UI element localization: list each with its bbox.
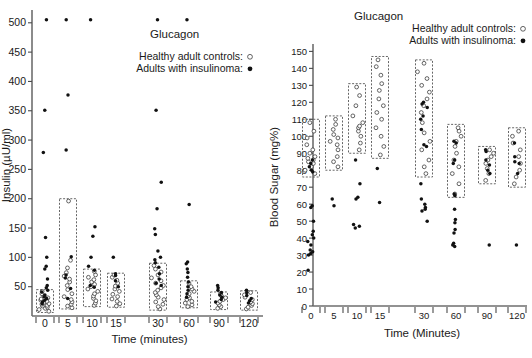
insulinoma-data-point <box>40 290 44 294</box>
control-data-point <box>161 302 165 306</box>
y-axis-tick-label: 140 <box>291 63 307 74</box>
insulinoma-data-point <box>426 106 430 110</box>
insulinoma-data-point <box>114 279 118 283</box>
insulinoma-data-point <box>332 204 336 208</box>
y-axis-tick-label: 20 <box>296 267 307 278</box>
control-data-point <box>68 277 72 281</box>
insulinoma-data-point <box>330 197 334 201</box>
legend-controls-label: Healthy adult controls: <box>139 50 243 62</box>
insulinoma-data-point <box>311 233 315 237</box>
control-data-point <box>70 292 74 296</box>
control-data-point <box>376 58 380 62</box>
control-data-point <box>351 114 355 118</box>
insulinoma-data-point <box>452 162 456 166</box>
insulinoma-data-point <box>185 295 189 299</box>
control-data-point <box>484 178 488 182</box>
insulinoma-data-point <box>66 297 70 301</box>
control-data-point <box>456 126 460 130</box>
x-axis-title: Time (Minutes) <box>384 327 460 339</box>
control-data-point <box>455 151 459 155</box>
control-data-point <box>517 155 521 159</box>
control-data-point <box>69 298 73 302</box>
control-data-point <box>492 151 496 155</box>
insulinoma-data-point <box>453 228 457 232</box>
insulinoma-data-point <box>154 233 158 237</box>
control-data-point <box>334 122 338 126</box>
control-data-point <box>162 298 166 302</box>
control-data-point <box>517 129 521 133</box>
insulinoma-data-point <box>425 219 429 223</box>
control-data-point <box>514 175 518 179</box>
insulinoma-data-point <box>419 118 423 122</box>
insulinoma-data-point <box>453 208 457 212</box>
insulinoma-data-point <box>420 209 424 213</box>
insulinoma-data-point <box>89 284 93 288</box>
control-data-point <box>66 304 70 308</box>
control-data-point <box>116 295 120 299</box>
insulinoma-data-point <box>69 255 73 259</box>
y-axis-tick-label: 150 <box>8 222 26 234</box>
insulinoma-data-point <box>513 141 517 145</box>
insulinoma-data-point <box>309 206 313 210</box>
control-data-point <box>489 155 493 159</box>
control-data-point <box>37 308 41 312</box>
insulinoma-data-point <box>425 145 429 149</box>
insulin-panel: 5010015020025030035040045050005101530609… <box>0 0 266 358</box>
filled-circle-marker <box>248 66 253 71</box>
control-data-point <box>186 305 190 309</box>
insulinoma-data-point <box>187 203 191 207</box>
insulinoma-data-point <box>247 301 251 305</box>
control-data-point <box>381 104 385 108</box>
control-data-point <box>377 97 381 101</box>
y-axis-tick-label: 100 <box>8 251 26 263</box>
insulinoma-data-point <box>312 236 316 240</box>
control-data-point <box>111 292 115 296</box>
control-data-point <box>150 276 154 280</box>
insulinoma-data-point <box>245 294 249 298</box>
insulinoma-data-point <box>214 300 218 304</box>
x-axis-tick-label: 60 <box>451 310 462 321</box>
control-data-point <box>92 278 96 282</box>
insulinoma-data-point <box>309 243 313 247</box>
control-range-box <box>372 56 389 158</box>
x-axis-title: Time (minutes) <box>111 333 187 345</box>
insulinoma-data-point <box>420 128 424 132</box>
insulinoma-data-point <box>87 264 91 268</box>
y-axis-tick-label: 400 <box>8 75 26 87</box>
insulinoma-data-point <box>89 18 93 22</box>
control-data-point <box>512 182 516 186</box>
insulinoma-data-point <box>306 240 310 244</box>
insulinoma-data-point <box>43 108 47 112</box>
insulinoma-data-point <box>311 158 315 162</box>
y-axis-tick-label: 70 <box>296 182 307 193</box>
insulinoma-data-point <box>513 160 517 164</box>
y-axis-tick-label: 10 <box>296 284 307 295</box>
insulinoma-data-point <box>156 249 160 253</box>
control-data-point <box>224 296 228 300</box>
control-data-point <box>65 284 69 288</box>
insulinoma-data-point <box>112 256 116 260</box>
y-axis-tick-label: 90 <box>296 148 307 159</box>
insulinoma-data-point <box>308 165 312 169</box>
insulinoma-data-point <box>154 261 158 265</box>
control-data-point <box>427 158 431 162</box>
control-data-point <box>425 77 429 81</box>
insulinoma-data-point <box>216 288 220 292</box>
y-axis-tick-label: 100 <box>291 131 307 142</box>
x-axis-tick-label: 0 <box>42 317 48 329</box>
insulinoma-data-point <box>186 288 190 292</box>
control-data-point <box>511 134 515 138</box>
x-axis-tick-label: 90 <box>482 310 493 321</box>
control-data-point <box>450 172 454 176</box>
control-data-point <box>115 299 119 303</box>
y-axis-tick-label: 500 <box>8 16 26 28</box>
filled-circle-marker <box>521 38 526 43</box>
control-data-point <box>518 148 522 152</box>
control-data-point <box>336 136 340 140</box>
insulinoma-data-point <box>42 151 46 155</box>
insulinoma-data-point <box>93 269 97 273</box>
insulinoma-data-point <box>312 219 316 223</box>
control-data-point <box>422 61 426 65</box>
control-data-point <box>375 111 379 115</box>
control-data-point <box>379 134 383 138</box>
